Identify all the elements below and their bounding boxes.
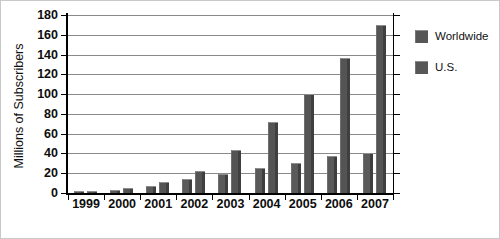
y-axis-tick (61, 153, 67, 154)
legend-swatch-worldwide (415, 30, 428, 43)
y-axis-tick-right (393, 134, 400, 135)
legend-swatch-us (415, 61, 428, 74)
y-axis-tick-right (393, 55, 400, 56)
y-axis-tick (61, 74, 67, 75)
y-axis-tick-label: 140 (13, 49, 58, 62)
y-axis-tick-label: 0 (13, 187, 58, 200)
x-axis-tick-labels: 199920002001200220032004200520062007 (68, 1, 393, 239)
y-axis-tick-label: 180 (13, 9, 58, 22)
y-axis-tick-label: 100 (13, 88, 58, 101)
y-axis-tick-label: 160 (13, 29, 58, 42)
chart-legend: Worldwide U.S. (415, 29, 495, 91)
y-axis-tick (61, 173, 67, 174)
y-axis-tick-label: 40 (13, 147, 58, 160)
y-axis-tick (61, 134, 67, 135)
y-axis-tick (61, 193, 67, 194)
right-axis-line (393, 13, 394, 193)
y-axis-tick-right (393, 173, 400, 174)
y-axis-tick (61, 94, 67, 95)
y-axis-tick (61, 114, 67, 115)
bar-chart-figure: Millions of Subscribers 0204060801001201… (0, 0, 500, 239)
y-axis-tick-right (393, 193, 400, 194)
y-axis-tick-right (393, 35, 400, 36)
x-axis-tick-label: 2007 (350, 197, 400, 211)
y-axis-tick (61, 15, 67, 16)
y-axis-tick (61, 55, 67, 56)
legend-item-worldwide: Worldwide (415, 29, 495, 43)
legend-label-worldwide: Worldwide (435, 30, 488, 42)
y-axis-tick-right (393, 94, 400, 95)
y-axis-tick-label: 80 (13, 108, 58, 121)
legend-item-us: U.S. (415, 60, 495, 74)
legend-label-us: U.S. (435, 61, 457, 73)
y-axis-tick-label: 20 (13, 167, 58, 180)
y-axis-tick-right (393, 153, 400, 154)
y-axis-tick (61, 35, 67, 36)
y-axis-tick-right (393, 74, 400, 75)
y-axis-tick-label: 120 (13, 68, 58, 81)
y-axis-tick-right (393, 15, 400, 16)
y-axis-tick-right (393, 114, 400, 115)
y-axis-tick-label: 60 (13, 128, 58, 141)
